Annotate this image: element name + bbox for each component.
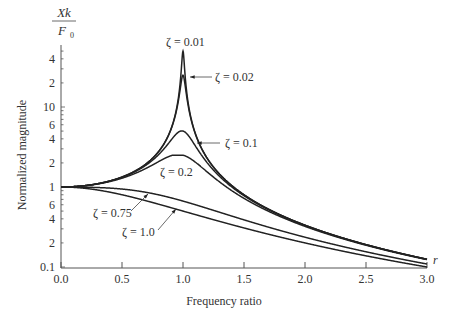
x-tick-label: 0.5 xyxy=(115,272,130,286)
curve-zeta-0-1 xyxy=(61,131,427,259)
y-tick-label: 2 xyxy=(49,156,55,170)
x-tick-label: 2.0 xyxy=(298,272,313,286)
x-axis-label: Frequency ratio xyxy=(186,294,262,308)
frequency-response-chart: 421064216420.10.00.51.01.52.02.53.0rFreq… xyxy=(0,0,457,320)
x-tick-label: 0.0 xyxy=(54,272,69,286)
y-tick-label: 6 xyxy=(49,198,55,212)
label-zeta-0-1: ζ = 0.1 xyxy=(225,136,258,150)
y-tick-label: 10 xyxy=(43,100,55,114)
y-tick-label: 1 xyxy=(49,180,55,194)
label-zeta-0-75: ζ = 0.75 xyxy=(93,206,132,220)
y-axis-label: Normalized magnitude xyxy=(15,100,29,210)
x-tick-label: 2.5 xyxy=(359,272,374,286)
y-tick-label: 4 xyxy=(49,132,55,146)
curve-zeta-0-02 xyxy=(61,75,427,259)
x-variable-label: r xyxy=(433,253,438,267)
y-fraction-denominator: F xyxy=(57,23,67,38)
y-fraction-subscript: 0 xyxy=(70,31,74,40)
arrow-zeta-0-02-head xyxy=(190,75,195,78)
label-zeta-1-0: ζ = 1.0 xyxy=(122,225,155,239)
y-fraction-numerator: Xk xyxy=(56,5,71,20)
label-zeta-0-2: ζ = 0.2 xyxy=(160,165,193,179)
y-tick-label: 2 xyxy=(49,76,55,90)
x-tick-label: 3.0 xyxy=(420,272,435,286)
axes: 421064216420.10.00.51.01.52.02.53.0rFreq… xyxy=(15,5,438,308)
x-tick-label: 1.0 xyxy=(176,272,191,286)
x-tick-label: 1.5 xyxy=(237,272,252,286)
y-tick-label: 4 xyxy=(49,212,55,226)
y-tick-label: 2 xyxy=(49,236,55,250)
label-zeta-0-01: ζ = 0.01 xyxy=(166,35,205,49)
label-zeta-0-02: ζ = 0.02 xyxy=(215,70,254,84)
y-tick-label: 6 xyxy=(49,118,55,132)
y-tick-label: 4 xyxy=(49,52,55,66)
